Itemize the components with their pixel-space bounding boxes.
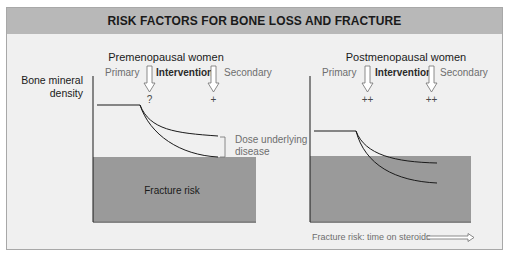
bmd-curve-upper (97, 105, 218, 136)
panel-postmenopausal: Postmenopausal women Primary Interventio… (310, 51, 488, 222)
panel-heading: Postmenopausal women (346, 51, 466, 63)
phase-primary: Primary (322, 67, 356, 78)
down-arrow-icon (144, 66, 155, 92)
panel-heading: Premenopausal women (108, 51, 224, 63)
fracture-risk-zone (310, 156, 471, 221)
bracket (220, 137, 225, 157)
phase-intervention: Intervention (156, 67, 213, 78)
phase-primary: Primary (105, 67, 139, 78)
marker-label: ++ (426, 94, 438, 105)
down-arrow-icon (362, 66, 373, 92)
phase-secondary: Secondary (224, 67, 272, 78)
marker-label: ? (147, 94, 153, 105)
y-axis-label-line2: density (50, 87, 84, 99)
bmd-curve-lower (140, 105, 218, 157)
right-arrow-icon (427, 234, 474, 242)
bracket-label-line2: disease (235, 146, 270, 157)
phase-secondary: Secondary (440, 67, 488, 78)
diagram-canvas: Premenopausal women Primary Intervention… (0, 0, 507, 257)
x-axis-label: Fracture risk: time on steroids (312, 232, 431, 242)
phase-intervention: Intervention (375, 67, 432, 78)
marker-label: + (211, 94, 217, 105)
fracture-risk-label: Fracture risk (144, 185, 201, 196)
marker-label: ++ (362, 94, 374, 105)
panel-premenopausal: Premenopausal women Primary Intervention… (21, 51, 307, 222)
y-axis-label-line1: Bone mineral (21, 74, 83, 86)
bracket-label-line1: Dose underlying (235, 134, 307, 145)
footer: Fracture risk: time on steroids (312, 232, 474, 242)
